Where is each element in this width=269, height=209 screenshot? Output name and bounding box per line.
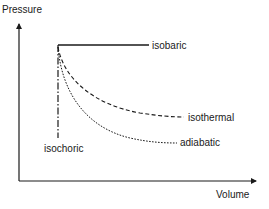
adiabatic-curve	[58, 47, 177, 143]
isobaric-label: isobaric	[152, 40, 186, 51]
isochoric-label: isochoric	[44, 143, 83, 154]
pv-diagram: Pressure Volume isobaric isochoric isoth…	[0, 0, 269, 209]
isothermal-label: isothermal	[188, 112, 234, 123]
isothermal-curve	[58, 47, 184, 117]
x-axis-label: Volume	[216, 189, 250, 200]
adiabatic-label: adiabatic	[180, 137, 220, 148]
y-axis-label: Pressure	[2, 4, 42, 15]
